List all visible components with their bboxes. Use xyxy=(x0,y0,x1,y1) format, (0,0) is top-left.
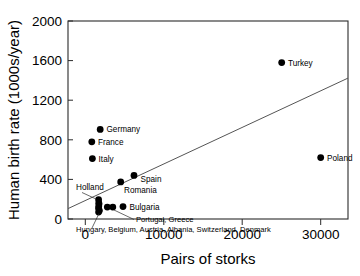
point-bulgaria[interactable] xyxy=(120,203,127,210)
label-italy: Italy xyxy=(99,155,115,164)
stork-birthrate-scatter-figure: Human birth rate (1000s/year) 2000 1600 … xyxy=(0,0,360,276)
point-france[interactable] xyxy=(88,138,95,145)
label-poland: Poland xyxy=(327,154,353,163)
label-holland: Holland xyxy=(76,183,104,192)
y-axis-ticks xyxy=(68,21,73,219)
point-romania[interactable] xyxy=(117,179,124,186)
y-axis-title: Human birth rate (1000s/year) xyxy=(5,20,22,220)
x-axis-title: Pairs of storks xyxy=(160,250,255,267)
leader-line-holland xyxy=(82,193,96,200)
y-tick-label-800: 800 xyxy=(39,133,62,148)
point-germany[interactable] xyxy=(97,126,104,133)
label-france: France xyxy=(98,138,124,147)
label-portugal-greece: Portugal, Greece xyxy=(136,215,193,224)
plot-canvas: Human birth rate (1000s/year) 2000 1600 … xyxy=(0,0,360,276)
point-greece[interactable] xyxy=(109,204,116,211)
point-italy[interactable] xyxy=(89,155,96,162)
y-tick-label-1600: 1600 xyxy=(32,53,62,68)
label-turkey: Turkey xyxy=(288,59,314,68)
y-tick-label-0: 0 xyxy=(54,212,62,227)
label-spain: Spain xyxy=(141,175,162,184)
point-turkey[interactable] xyxy=(278,59,285,66)
label-germany: Germany xyxy=(107,125,142,134)
y-tick-label-2000: 2000 xyxy=(32,14,62,29)
y-tick-label-400: 400 xyxy=(39,172,62,187)
point-spain[interactable] xyxy=(131,172,138,179)
x-tick-label-30000: 30000 xyxy=(302,227,340,242)
label-romania: Romania xyxy=(124,186,157,195)
label-cluster-countries: Hungary, Belgium, Austria, Albania, Swit… xyxy=(76,225,271,234)
point-poland[interactable] xyxy=(317,154,324,161)
y-tick-label-1200: 1200 xyxy=(32,93,62,108)
label-bulgaria: Bulgaria xyxy=(130,203,160,212)
